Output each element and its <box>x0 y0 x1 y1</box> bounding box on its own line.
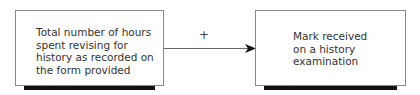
causal-arrow-line <box>164 48 248 49</box>
positive-relation-sign: + <box>199 28 209 42</box>
effect-box-shadow <box>264 86 397 90</box>
effect-variable-label: Mark received on a history examination <box>293 30 398 68</box>
cause-box-shadow <box>24 86 155 90</box>
cause-variable-label: Total number of hours spent revising for… <box>36 26 161 76</box>
